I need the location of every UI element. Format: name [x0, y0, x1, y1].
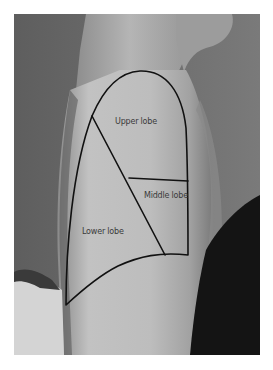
torso	[58, 70, 213, 355]
chest-photo: Upper lobe Middle lobe Lower lobe	[14, 14, 260, 355]
middle-lobe-label: Middle lobe	[144, 191, 188, 200]
lower-lobe-label: Lower lobe	[82, 227, 124, 236]
photo-scene	[14, 14, 260, 355]
upper-lobe-label: Upper lobe	[115, 117, 157, 126]
